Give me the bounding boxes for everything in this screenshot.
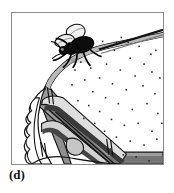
fly-eye xyxy=(61,48,64,51)
fly-shadow xyxy=(65,58,89,63)
panel-label: (d) xyxy=(9,168,25,182)
mattress-illustration xyxy=(12,13,163,164)
illustration-frame xyxy=(11,12,164,165)
figure-panel: (d) xyxy=(0,0,174,193)
